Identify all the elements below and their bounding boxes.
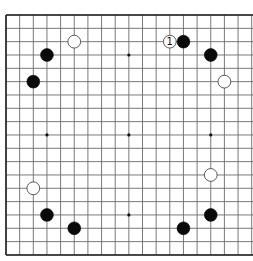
black-stone bbox=[41, 209, 54, 222]
star-point-icon bbox=[127, 213, 130, 216]
black-stone bbox=[204, 209, 217, 222]
black-stone bbox=[41, 49, 54, 62]
white-stone bbox=[68, 35, 81, 48]
black-stone-icon bbox=[41, 49, 54, 62]
black-stone bbox=[68, 222, 81, 235]
black-stone-icon bbox=[41, 209, 54, 222]
black-stone-icon bbox=[27, 75, 40, 88]
black-stone bbox=[204, 49, 217, 62]
black-stone-icon bbox=[177, 35, 190, 48]
black-stone-icon bbox=[68, 222, 81, 235]
white-stone-icon bbox=[68, 35, 81, 48]
black-stone-icon bbox=[204, 49, 217, 62]
black-stone-icon bbox=[204, 209, 217, 222]
black-stone bbox=[177, 35, 190, 48]
star-point-icon bbox=[209, 133, 212, 136]
move-number-label: 1 bbox=[167, 36, 173, 47]
white-stone bbox=[27, 182, 40, 195]
white-stone-icon bbox=[27, 182, 40, 195]
white-stone bbox=[218, 75, 231, 88]
white-stone-icon bbox=[204, 169, 217, 182]
star-point-icon bbox=[127, 133, 130, 136]
white-stone bbox=[204, 169, 217, 182]
black-stone-icon bbox=[177, 222, 190, 235]
black-stone bbox=[27, 75, 40, 88]
star-point-icon bbox=[45, 133, 48, 136]
white-stone-icon bbox=[218, 75, 231, 88]
white-stone: 1 bbox=[163, 35, 176, 48]
star-point-icon bbox=[127, 53, 130, 56]
black-stone bbox=[177, 222, 190, 235]
go-board: 1 bbox=[0, 0, 253, 261]
